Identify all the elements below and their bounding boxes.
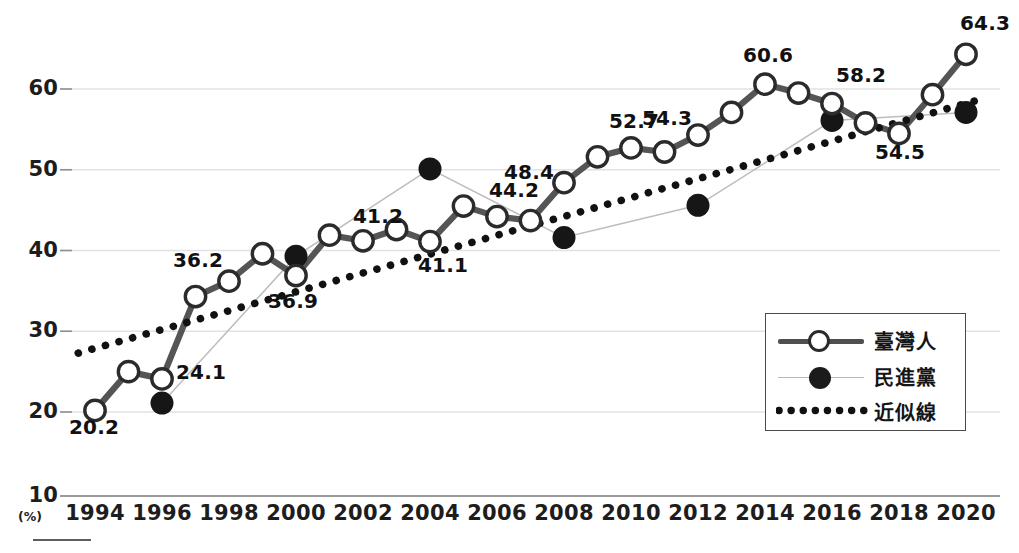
value-label-2000: 36.9 [268, 289, 318, 313]
chart-legend: 臺灣人 民進黨 近似線 [765, 313, 966, 431]
legend-label-trendline: 近似線 [874, 397, 937, 426]
value-label-1994: 20.2 [69, 415, 119, 439]
legend-symbol-line-open-circle [766, 323, 874, 357]
value-label-2018: 54.5 [875, 140, 925, 164]
legend-symbol-dotted-line [766, 394, 874, 428]
x-tick-2008: 2008 [529, 501, 599, 525]
x-tick-2018: 2018 [864, 501, 934, 525]
x-tick-2016: 2016 [797, 501, 867, 525]
footer-rule [33, 539, 91, 541]
y-axis-unit-label: (%) [18, 509, 42, 524]
x-tick-2012: 2012 [663, 501, 733, 525]
legend-item-trendline: 近似線 [766, 394, 967, 428]
line-chart: 102030405060 199419961998200020022004200… [0, 0, 1019, 553]
legend-label-dpp: 民進黨 [874, 362, 937, 391]
x-tick-2014: 2014 [730, 501, 800, 525]
x-tick-2010: 2010 [596, 501, 666, 525]
y-tick-30: 30 [14, 318, 58, 342]
value-label-2014: 60.6 [743, 43, 793, 67]
x-tick-1998: 1998 [194, 501, 264, 525]
x-tick-1994: 1994 [60, 501, 130, 525]
x-tick-1996: 1996 [127, 501, 197, 525]
value-label-2002: 41.2 [353, 204, 403, 228]
x-tick-2020: 2020 [931, 501, 1001, 525]
legend-item-dpp: 民進黨 [766, 359, 967, 393]
x-tick-2006: 2006 [462, 501, 532, 525]
x-tick-2002: 2002 [328, 501, 398, 525]
legend-item-taiwanese: 臺灣人 [766, 323, 967, 357]
y-tick-20: 20 [14, 399, 58, 423]
y-tick-50: 50 [14, 157, 58, 181]
y-tick-10: 10 [14, 483, 58, 507]
value-label-2012: 54.3 [642, 106, 692, 130]
x-tick-2004: 2004 [395, 501, 465, 525]
value-label-2016: 58.2 [836, 63, 886, 87]
value-label-2004: 41.1 [418, 253, 468, 277]
x-tick-2000: 2000 [261, 501, 331, 525]
y-tick-40: 40 [14, 238, 58, 262]
legend-label-taiwanese: 臺灣人 [874, 326, 937, 355]
legend-symbol-filled-circle [766, 359, 874, 393]
value-label-2020: 64.3 [960, 11, 1010, 35]
value-label-1998: 36.2 [173, 248, 223, 272]
value-label-1996: 24.1 [176, 360, 226, 384]
value-label-2008: 48.4 [504, 160, 554, 184]
y-tick-60: 60 [14, 76, 58, 100]
